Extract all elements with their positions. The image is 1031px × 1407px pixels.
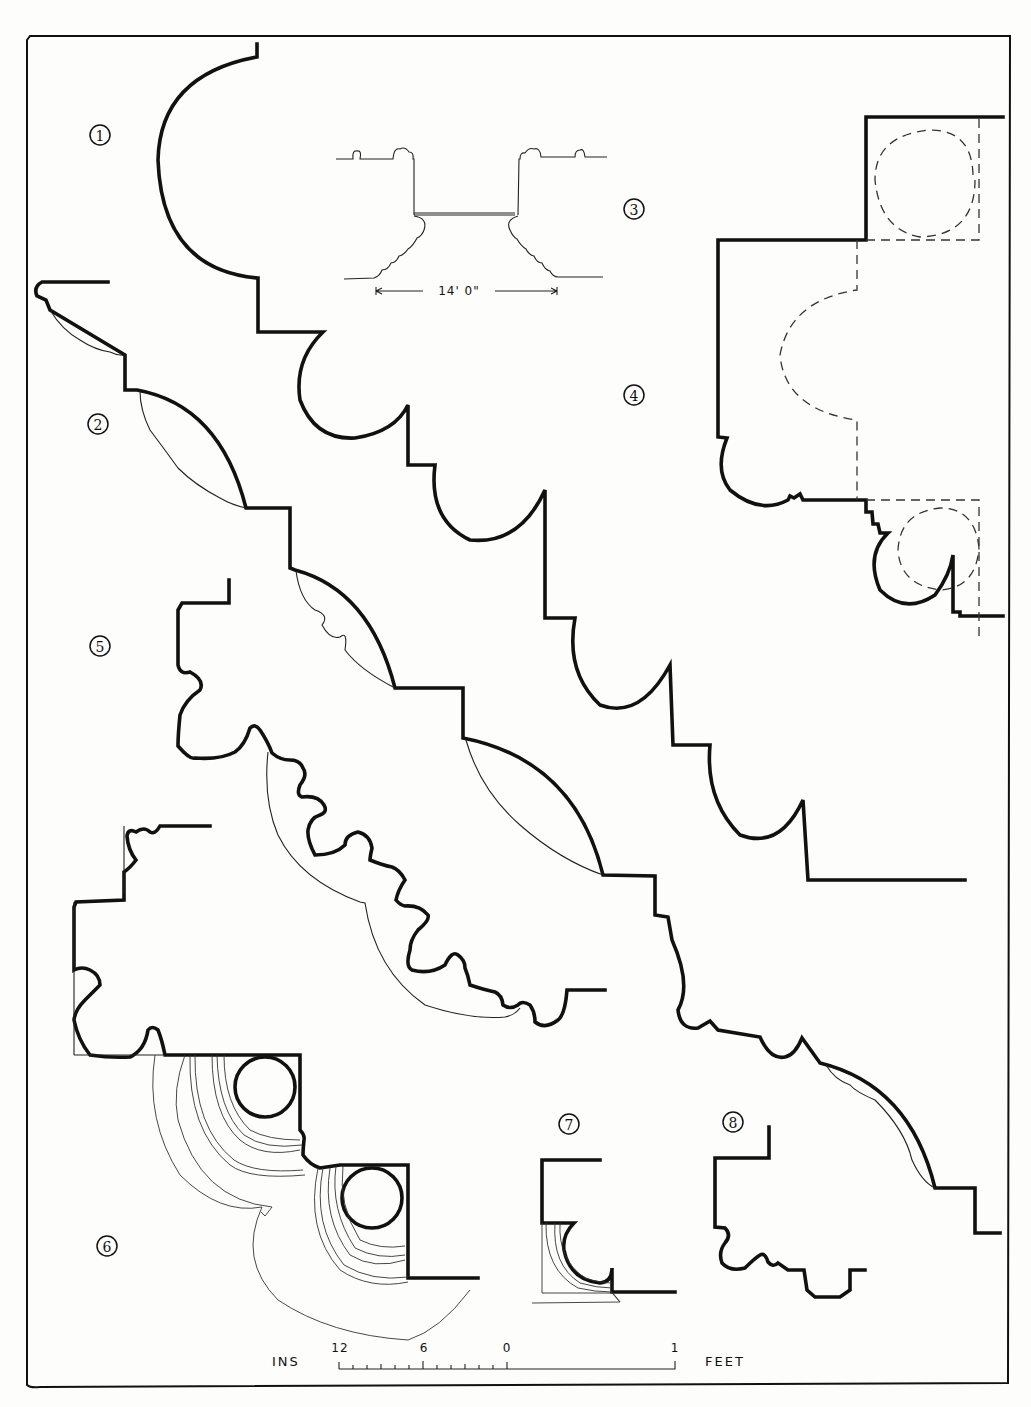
dimension-label: 14' 0" <box>438 284 480 298</box>
scale-tick-0: 0 <box>503 1341 512 1355</box>
svg-text:5: 5 <box>96 639 105 655</box>
figure-number-4: 4 <box>624 385 644 405</box>
svg-text:8: 8 <box>729 1115 738 1131</box>
profile-3: 14' 0" <box>336 148 607 298</box>
svg-text:1: 1 <box>96 128 105 144</box>
profile-8 <box>715 1127 865 1297</box>
profile-6 <box>74 826 478 1340</box>
figure-number-2: 2 <box>88 414 108 434</box>
scale-left-label: INS <box>272 1354 300 1369</box>
profile-5 <box>178 580 605 1026</box>
svg-text:3: 3 <box>630 202 639 218</box>
figure-number-7: 7 <box>559 1114 579 1134</box>
svg-text:2: 2 <box>94 417 103 433</box>
figure-number-1: 1 <box>90 125 110 145</box>
profile-7 <box>532 1160 675 1303</box>
figure-number-6: 6 <box>97 1236 117 1256</box>
figure-number-5: 5 <box>90 636 110 656</box>
scale-bar: INS FEET 12 6 0 1 <box>272 1341 745 1369</box>
architectural-plate: 14' 0" <box>0 0 1031 1407</box>
scale-right-label: FEET <box>705 1354 745 1369</box>
svg-text:6: 6 <box>103 1239 112 1255</box>
profile-1 <box>158 44 965 880</box>
scale-tick-1: 1 <box>671 1341 680 1355</box>
svg-text:4: 4 <box>630 388 639 404</box>
profile-4 <box>718 117 1003 636</box>
profile-2 <box>36 282 1000 1233</box>
scale-tick-12: 12 <box>331 1341 348 1355</box>
figure-number-8: 8 <box>723 1112 743 1132</box>
scale-tick-6: 6 <box>420 1341 429 1355</box>
figure-number-3: 3 <box>624 199 644 219</box>
svg-text:7: 7 <box>565 1117 574 1133</box>
